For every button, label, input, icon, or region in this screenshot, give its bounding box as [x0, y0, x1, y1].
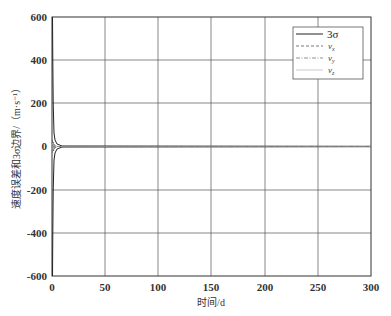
y-axis-label: 速度误差和3σ边界/（m·s⁻¹） [10, 83, 22, 209]
series-3sigma-lower [53, 147, 372, 276]
svg-text:250: 250 [310, 281, 327, 293]
svg-text:300: 300 [363, 281, 380, 293]
series-vx [53, 140, 372, 151]
x-axis-label: 时间/d [197, 296, 225, 308]
svg-text:0: 0 [42, 140, 48, 152]
x-tick-labels: 0 50 100 150 200 250 300 [49, 281, 380, 293]
svg-text:100: 100 [150, 281, 167, 293]
svg-text:50: 50 [100, 281, 112, 293]
y-tick-labels: 600 400 200 0 -200 -400 -600 [27, 11, 48, 282]
series-vy [53, 142, 372, 153]
svg-text:400: 400 [31, 54, 48, 66]
svg-text:-400: -400 [27, 227, 48, 239]
svg-text:600: 600 [31, 11, 48, 23]
svg-text:200: 200 [257, 281, 274, 293]
legend: 3σ vx vy vz [293, 27, 363, 79]
svg-text:-600: -600 [27, 270, 48, 282]
svg-text:0: 0 [49, 281, 55, 293]
svg-text:200: 200 [31, 97, 48, 109]
svg-text:-200: -200 [27, 184, 48, 196]
svg-text:150: 150 [203, 281, 220, 293]
legend-label-3sigma: 3σ [327, 28, 339, 40]
chart: 600 400 200 0 -200 -400 -600 0 50 100 15… [0, 0, 391, 316]
